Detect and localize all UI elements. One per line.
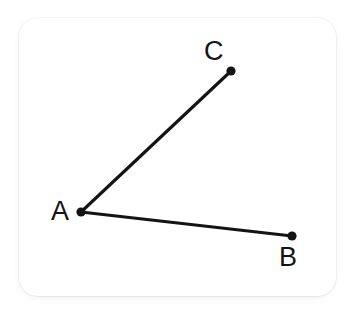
geometry-canvas [0,0,355,312]
segment-ac [81,71,231,212]
vertex-point-a [76,207,85,216]
vertex-label-a: A [51,198,69,225]
figure-root: A B C [0,0,355,312]
segment-ab [81,212,292,236]
vertex-label-c: C [204,38,224,65]
vertex-point-c [226,66,235,75]
vertex-point-b [287,231,296,240]
vertex-label-b: B [279,244,297,271]
